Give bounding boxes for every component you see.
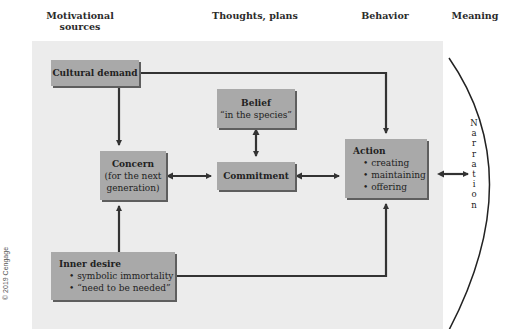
- copyright-notice: © 2019 Cengage: [2, 247, 9, 300]
- narration-label: N a r r a t i o n: [469, 118, 479, 210]
- inner-desire-item-needed: • “need to be needed”: [59, 282, 175, 294]
- box-action: Action • creating • maintaining • offeri…: [345, 139, 427, 198]
- narration-letter: r: [469, 138, 479, 148]
- belief-title: Belief: [241, 97, 271, 109]
- commitment-title: Commitment: [223, 170, 289, 182]
- narration-letter: n: [469, 200, 479, 210]
- narration-letter: N: [469, 118, 479, 128]
- box-concern: Concern (for the next generation): [100, 151, 166, 200]
- action-item-offering: • offering: [353, 181, 427, 193]
- narration-letter: t: [469, 169, 479, 179]
- narration-letter: i: [469, 179, 479, 189]
- narration-letter: o: [469, 189, 479, 199]
- box-commitment: Commitment: [217, 162, 295, 190]
- box-cultural-demand: Cultural demand: [51, 60, 139, 86]
- concern-line3: generation): [106, 182, 159, 194]
- concern-title: Concern: [112, 158, 154, 170]
- narration-letter: a: [469, 128, 479, 138]
- box-belief: Belief “in the species”: [217, 89, 295, 128]
- action-title: Action: [353, 145, 427, 157]
- action-item-maintaining: • maintaining: [353, 169, 427, 181]
- cultural-demand-label: Cultural demand: [52, 67, 137, 79]
- narration-letter: a: [469, 159, 479, 169]
- inner-desire-item-immortality: • symbolic immortality: [59, 270, 175, 282]
- action-item-creating: • creating: [353, 157, 427, 169]
- concern-line2: (for the next: [105, 170, 162, 182]
- narration-letter: r: [469, 149, 479, 159]
- box-inner-desire: Inner desire • symbolic immortality • “n…: [51, 252, 175, 300]
- belief-subtitle: “in the species”: [220, 109, 292, 121]
- inner-desire-title: Inner desire: [59, 258, 175, 270]
